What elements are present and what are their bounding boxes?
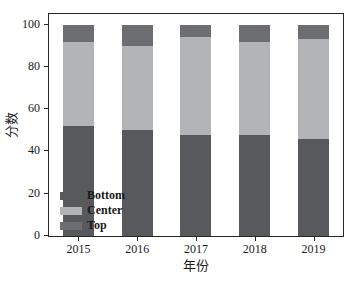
- legend-item-center: Center: [60, 204, 125, 217]
- figure: 分数 BottomCenterTop 020406080100 年份 20152…: [0, 0, 358, 282]
- legend-label-top: Top: [87, 219, 107, 232]
- y-axis-tick-labels: 020406080100: [0, 13, 42, 237]
- legend: BottomCenterTop: [60, 189, 125, 232]
- bar-segment-bottom-2019: [298, 139, 329, 236]
- y-tick-label-40: 40: [28, 144, 40, 156]
- bar-segment-bottom-2016: [122, 130, 153, 236]
- stacked-bar-2016: [122, 25, 153, 236]
- x-tick-label-2016: 2016: [125, 243, 149, 255]
- x-tick-mark-2017: [196, 237, 197, 241]
- bar-segment-center-2017: [180, 37, 211, 134]
- x-tick-label-2019: 2019: [302, 243, 326, 255]
- bar-segment-bottom-2018: [239, 135, 270, 236]
- bar-slot-2019: [284, 14, 343, 236]
- x-axis-label: 年份: [48, 259, 344, 272]
- legend-swatch-center: [60, 207, 82, 215]
- bar-segment-top-2019: [298, 25, 329, 40]
- bar-slot-2018: [225, 14, 284, 236]
- x-tick-mark-2016: [137, 237, 138, 241]
- bar-segment-center-2019: [298, 39, 329, 138]
- y-tick-label-100: 100: [22, 18, 40, 30]
- x-tick-mark-2019: [314, 237, 315, 241]
- x-tick-label-2017: 2017: [184, 243, 208, 255]
- stacked-bar-2019: [298, 25, 329, 236]
- bar-segment-top-2017: [180, 25, 211, 38]
- x-tick-label-2018: 2018: [243, 243, 267, 255]
- y-tick-mark-80: [44, 66, 48, 67]
- legend-swatch-bottom: [60, 192, 82, 200]
- bar-segment-center-2016: [122, 46, 153, 131]
- plot-area: BottomCenterTop: [48, 13, 344, 237]
- legend-item-bottom: Bottom: [60, 189, 125, 202]
- stacked-bar-2018: [239, 25, 270, 236]
- bar-segment-top-2016: [122, 25, 153, 46]
- bar-segment-top-2018: [239, 25, 270, 42]
- y-tick-label-60: 60: [28, 102, 40, 114]
- y-tick-label-0: 0: [34, 229, 40, 241]
- y-tick-mark-60: [44, 108, 48, 109]
- legend-label-center: Center: [87, 204, 122, 217]
- y-tick-label-20: 20: [28, 187, 40, 199]
- x-tick-mark-2018: [255, 237, 256, 241]
- bar-segment-center-2015: [63, 42, 94, 127]
- bar-slot-2017: [167, 14, 226, 236]
- legend-swatch-top: [60, 222, 82, 230]
- bar-segment-center-2018: [239, 42, 270, 135]
- legend-label-bottom: Bottom: [87, 189, 125, 202]
- y-tick-mark-20: [44, 193, 48, 194]
- y-tick-mark-0: [44, 235, 48, 236]
- y-tick-label-80: 80: [28, 60, 40, 72]
- bar-segment-bottom-2017: [180, 135, 211, 236]
- stacked-bar-2017: [180, 25, 211, 236]
- x-tick-mark-2015: [78, 237, 79, 241]
- bar-segment-top-2015: [63, 25, 94, 42]
- x-tick-label-2015: 2015: [66, 243, 90, 255]
- legend-item-top: Top: [60, 219, 125, 232]
- y-tick-mark-40: [44, 150, 48, 151]
- y-tick-mark-100: [44, 24, 48, 25]
